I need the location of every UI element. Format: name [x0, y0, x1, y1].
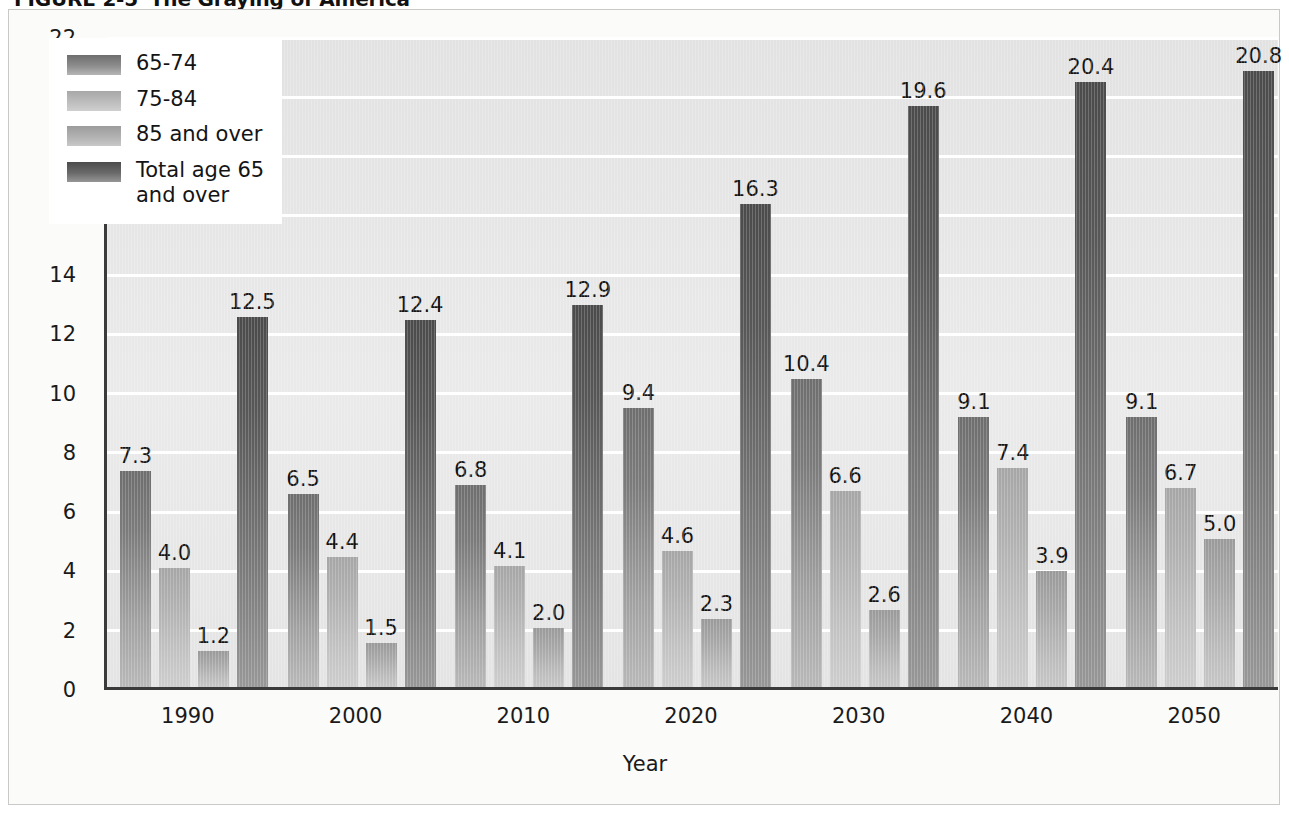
bar-value-label: 9.4 [622, 381, 655, 405]
bar-value-label: 4.0 [158, 541, 191, 565]
x-axis-tick-2050: 2050 [1114, 704, 1274, 728]
bar-value-label: 4.4 [325, 530, 358, 554]
bar-value-label: 19.6 [900, 79, 947, 103]
bar-value-label: 2.3 [700, 592, 733, 616]
bar-value-label: 16.3 [732, 177, 779, 201]
bar-value-label: 6.6 [829, 464, 862, 488]
bar-value-label: 3.9 [1035, 544, 1068, 568]
x-axis-tick-2000: 2000 [276, 704, 436, 728]
bar-value-label: 6.5 [286, 467, 319, 491]
y-axis-tick-4: 4 [36, 559, 76, 583]
legend-label: 85 and over [136, 122, 262, 148]
bar-value-label: 1.5 [364, 616, 397, 640]
bar-value-label: 6.8 [454, 458, 487, 482]
bar-2020-75-84: 4.6 [662, 551, 693, 687]
bar-2040-85-and-over: 3.9 [1036, 571, 1067, 687]
legend-item-85-and-over[interactable]: 85 and over [49, 122, 282, 148]
bar-2050-65-74: 9.1 [1126, 417, 1157, 687]
legend-swatch-icon [67, 91, 121, 111]
chart-legend: 65-7475-8485 and overTotal age 65and ove… [49, 38, 282, 224]
bar-2050-total-age-65-and-over: 20.8 [1243, 71, 1274, 687]
bar-2000-65-74: 6.5 [288, 494, 319, 687]
bar-value-label: 20.8 [1235, 44, 1282, 68]
bar-value-label: 1.2 [197, 624, 230, 648]
y-axis-tick-10: 10 [36, 382, 76, 406]
bar-value-label: 6.7 [1164, 461, 1197, 485]
bar-2050-85-and-over: 5.0 [1204, 539, 1235, 687]
bar-value-label: 12.4 [397, 293, 444, 317]
legend-label: 75-84 [136, 87, 197, 113]
x-axis-tick-1990: 1990 [108, 704, 268, 728]
bar-2030-75-84: 6.6 [830, 491, 861, 687]
bar-value-label: 12.9 [564, 278, 611, 302]
legend-item-75-84[interactable]: 75-84 [49, 87, 282, 113]
figure-frame: Percentage of population 024681012141618… [8, 9, 1280, 805]
x-axis-title: Year [9, 752, 1281, 776]
x-axis-tick-2010: 2010 [443, 704, 603, 728]
bar-value-label: 4.6 [661, 524, 694, 548]
bar-2030-85-and-over: 2.6 [869, 610, 900, 687]
legend-item-65-74[interactable]: 65-74 [49, 51, 282, 77]
legend-item-total-age-65-and-over[interactable]: Total age 65and over [49, 158, 282, 209]
bar-2040-total-age-65-and-over: 20.4 [1075, 82, 1106, 687]
legend-swatch-icon [67, 126, 121, 146]
bar-2040-75-84: 7.4 [997, 468, 1028, 687]
figure-container: FIGURE 2-5The Graying of America Percent… [0, 0, 1289, 817]
bar-1990-85-and-over: 1.2 [198, 651, 229, 687]
y-axis-tick-2: 2 [36, 619, 76, 643]
bar-2000-total-age-65-and-over: 12.4 [405, 320, 436, 687]
x-axis-tick-2040: 2040 [946, 704, 1106, 728]
x-axis-tick-2020: 2020 [611, 704, 771, 728]
bar-2020-85-and-over: 2.3 [701, 619, 732, 687]
legend-label: 65-74 [136, 51, 197, 77]
bar-value-label: 2.6 [868, 583, 901, 607]
bar-value-label: 2.0 [532, 601, 565, 625]
bar-value-label: 9.1 [957, 390, 990, 414]
y-axis-tick-14: 14 [36, 263, 76, 287]
bar-value-label: 9.1 [1125, 390, 1158, 414]
legend-swatch-icon [67, 55, 121, 75]
bar-2040-65-74: 9.1 [958, 417, 989, 687]
bar-2010-75-84: 4.1 [494, 566, 525, 688]
legend-swatch-icon [67, 162, 121, 182]
bar-2050-75-84: 6.7 [1165, 488, 1196, 687]
bar-2010-total-age-65-and-over: 12.9 [572, 305, 603, 687]
y-axis-tick-6: 6 [36, 500, 76, 524]
y-axis-tick-12: 12 [36, 322, 76, 346]
x-axis-tick-2030: 2030 [779, 704, 939, 728]
bar-2010-65-74: 6.8 [455, 485, 486, 687]
bar-2000-85-and-over: 1.5 [366, 643, 397, 687]
bar-1990-65-74: 7.3 [120, 471, 151, 687]
bar-value-label: 4.1 [493, 539, 526, 563]
bar-value-label: 5.0 [1203, 512, 1236, 536]
bar-2010-85-and-over: 2.0 [533, 628, 564, 687]
bar-2000-75-84: 4.4 [327, 557, 358, 687]
bar-value-label: 20.4 [1068, 55, 1115, 79]
bar-2020-65-74: 9.4 [623, 408, 654, 687]
y-axis-tick-0: 0 [36, 678, 76, 702]
bar-2030-total-age-65-and-over: 19.6 [908, 106, 939, 687]
legend-label: Total age 65and over [136, 158, 264, 209]
bar-1990-total-age-65-and-over: 12.5 [237, 317, 268, 687]
y-axis-tick-8: 8 [36, 441, 76, 465]
bar-2030-65-74: 10.4 [791, 379, 822, 687]
bar-2020-total-age-65-and-over: 16.3 [740, 204, 771, 687]
gridline [107, 37, 1278, 40]
bar-value-label: 10.4 [783, 352, 830, 376]
bar-1990-75-84: 4.0 [159, 568, 190, 687]
bar-value-label: 12.5 [229, 290, 276, 314]
bar-value-label: 7.4 [996, 441, 1029, 465]
bar-value-label: 7.3 [119, 444, 152, 468]
